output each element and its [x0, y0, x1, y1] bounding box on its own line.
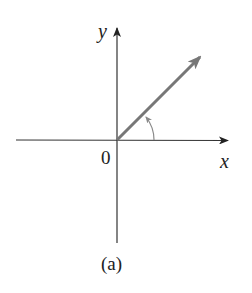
angle-arc	[146, 117, 154, 140]
origin-label: 0	[101, 147, 111, 168]
y-axis-label: y	[96, 20, 107, 43]
figure-caption: (a)	[101, 253, 122, 275]
x-axis	[16, 140, 228, 141]
coordinate-diagram: y x 0 (a)	[0, 0, 252, 293]
vector-arrow	[117, 57, 200, 140]
x-axis-label: x	[219, 150, 229, 172]
figure: y x 0 (a)	[0, 0, 252, 293]
